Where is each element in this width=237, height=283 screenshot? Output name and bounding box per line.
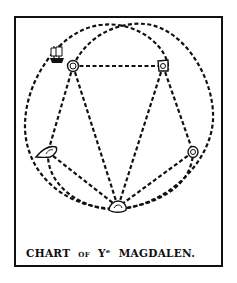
route-arc-right-circle: [73, 24, 213, 209]
island-4-icon: [188, 147, 198, 158]
caption-word-magdalen: MAGDALEN.: [119, 247, 196, 259]
caption-word-chart: CHART: [26, 247, 70, 259]
route-2-4: [163, 66, 193, 152]
route-3-5: [48, 152, 118, 207]
chart-caption: CHART OF Yᵉ MAGDALEN.: [26, 247, 195, 259]
caption-word-of: OF: [78, 250, 90, 259]
island-2-icon: [158, 60, 168, 71]
caption-word-ye: Yᵉ: [97, 247, 111, 259]
route-2-5: [118, 66, 163, 207]
route-1-3: [48, 66, 73, 152]
island-1-icon: [68, 61, 79, 72]
chart-of-magdalen: CHART OF Yᵉ MAGDALEN.: [0, 0, 237, 283]
route-1-5: [73, 66, 118, 207]
ship-icon: [50, 45, 64, 63]
